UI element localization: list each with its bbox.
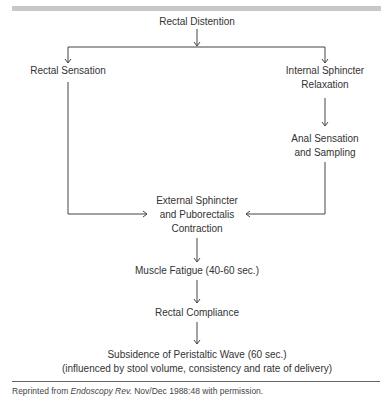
- node-external-sphincter-line3: Contraction: [137, 222, 257, 235]
- caption-rule: [12, 381, 380, 382]
- node-external-sphincter-line1: External Sphincter: [137, 194, 257, 207]
- node-subsidence-line1: Subsidence of Peristaltic Wave (60 sec.): [27, 348, 367, 361]
- caption-source: Endoscopy Rev.: [71, 386, 132, 396]
- node-subsidence-line2: (influenced by stool volume, consistency…: [17, 362, 377, 375]
- caption-prefix: Reprinted from: [12, 386, 71, 396]
- caption-suffix: Nov/Dec 1988:48 with permission.: [132, 386, 263, 396]
- node-internal-sphincter-line1: Internal Sphincter: [275, 64, 375, 77]
- node-muscle-fatigue: Muscle Fatigue (40-60 sec.): [107, 264, 287, 277]
- node-internal-sphincter-line2: Relaxation: [275, 78, 375, 91]
- node-external-sphincter-line2: and Puborectalis: [137, 208, 257, 221]
- node-rectal-sensation: Rectal Sensation: [18, 64, 118, 77]
- node-anal-sensation-line2: and Sampling: [275, 146, 375, 159]
- node-rectal-compliance: Rectal Compliance: [127, 306, 267, 319]
- node-rectal-distention: Rectal Distention: [147, 15, 247, 28]
- caption: Reprinted from Endoscopy Rev. Nov/Dec 19…: [12, 386, 263, 396]
- node-anal-sensation-line1: Anal Sensation: [275, 132, 375, 145]
